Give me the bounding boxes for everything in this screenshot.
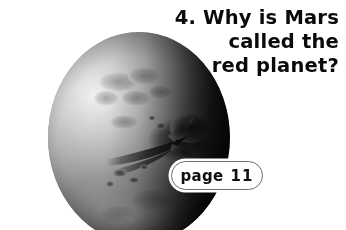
page-reference-number: 11 (231, 167, 254, 185)
question-line-2: called the (169, 30, 339, 54)
worksheet-page: 4. Why is Mars called the red planet? pa… (0, 0, 346, 230)
page-reference-label: page (181, 167, 224, 185)
question-line-3: red planet? (169, 54, 339, 78)
question-text: 4. Why is Mars called the red planet? (169, 6, 339, 78)
page-reference-callout[interactable]: page 11 (171, 161, 263, 190)
question-line-1: 4. Why is Mars (169, 6, 339, 30)
